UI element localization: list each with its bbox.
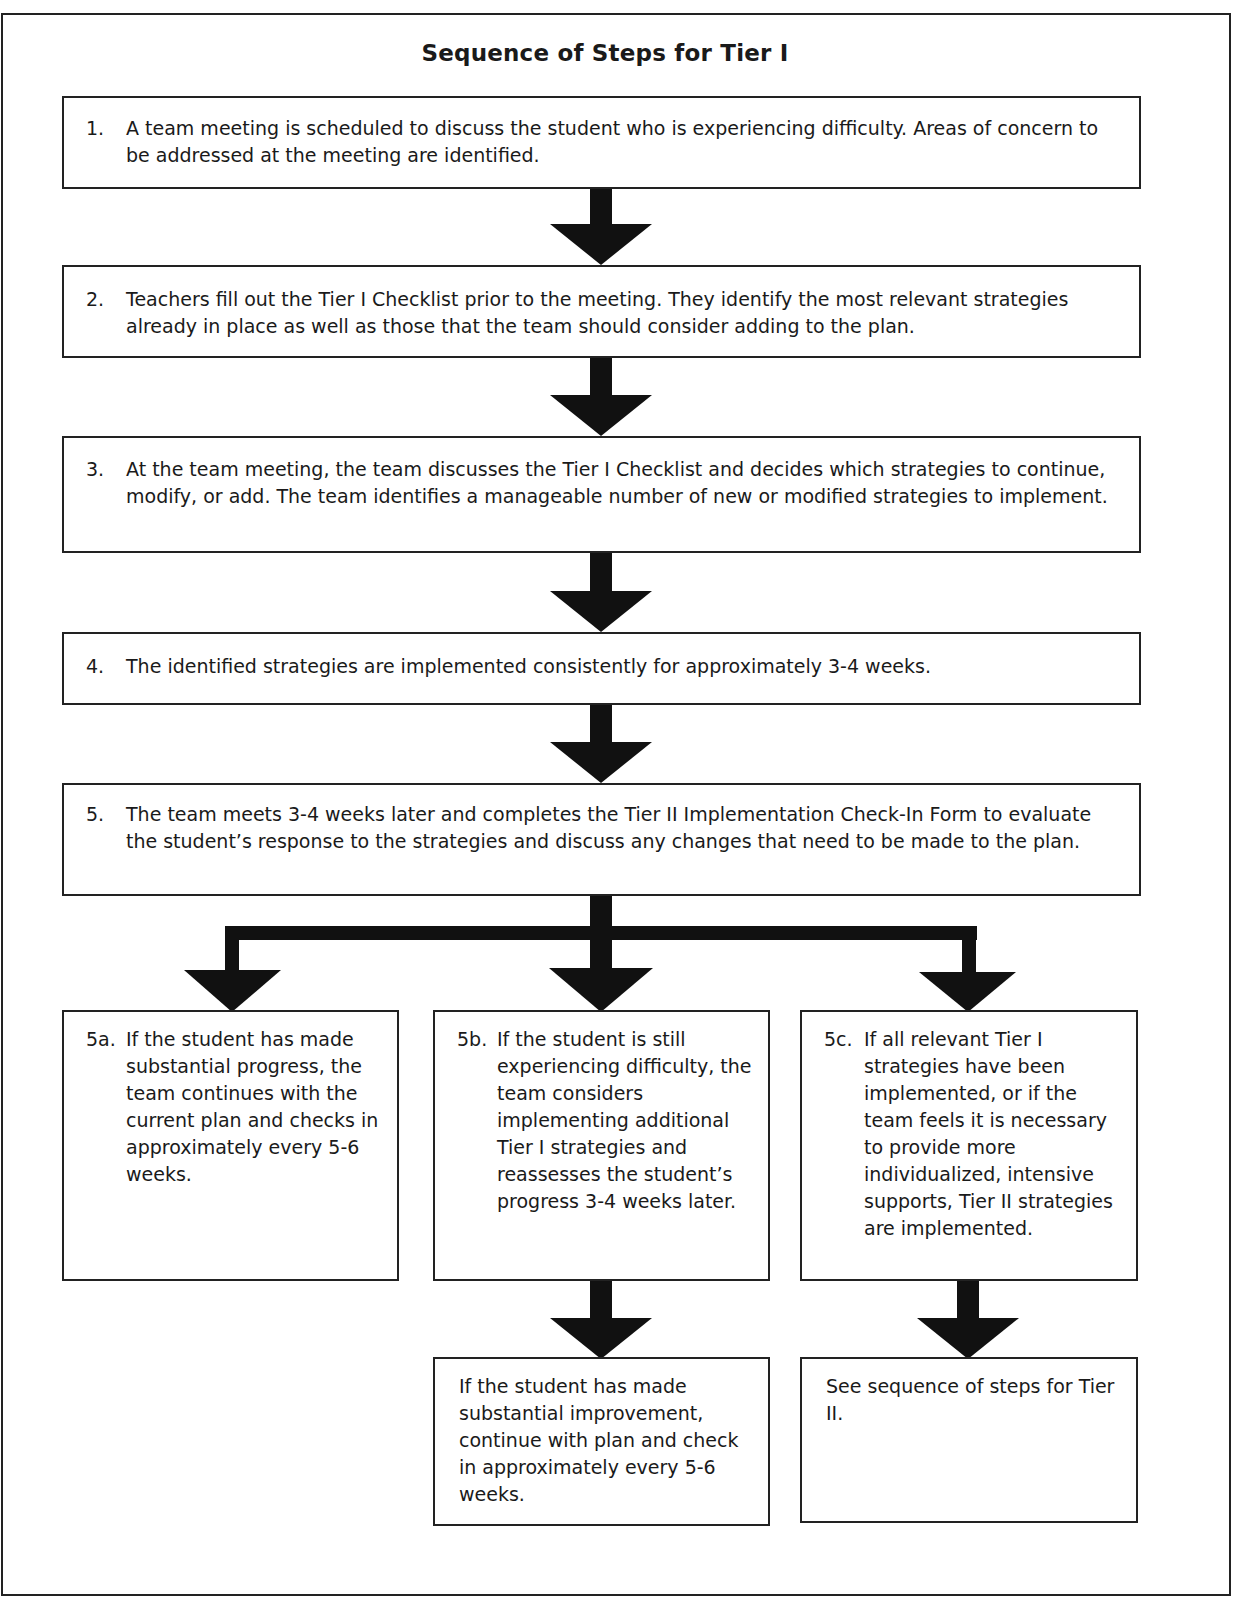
step-3-box: 3. At the team meeting, the team discuss… [62, 436, 1141, 553]
step-number: 2. [86, 286, 126, 356]
arrow-down-icon [550, 188, 652, 265]
step-text: A team meeting is scheduled to discuss t… [126, 115, 1125, 187]
branch-text: If all relevant Tier I strategies have b… [864, 1026, 1126, 1279]
outcome-5b-box: If the student has made substantial impr… [433, 1357, 770, 1526]
arrow-down-icon [550, 552, 652, 632]
arrow-down-icon [550, 1280, 652, 1359]
branch-number: 5a. [86, 1026, 126, 1279]
step-number: 5. [86, 801, 126, 894]
branch-5c-box: 5c. If all relevant Tier I strategies ha… [800, 1010, 1138, 1281]
step-number: 1. [86, 115, 126, 187]
step-text: Teachers fill out the Tier I Checklist p… [126, 286, 1125, 356]
arrow-down-icon [917, 1280, 1019, 1359]
step-number: 4. [86, 653, 126, 703]
step-2-box: 2. Teachers fill out the Tier I Checklis… [62, 265, 1141, 358]
arrow-down-icon [550, 704, 652, 783]
branch-number: 5b. [457, 1026, 497, 1279]
branch-5b-box: 5b. If the student is still experiencing… [433, 1010, 770, 1281]
outcome-text: See sequence of steps for Tier II. [826, 1375, 1114, 1424]
branch-number: 5c. [824, 1026, 864, 1279]
step-4-box: 4. The identified strategies are impleme… [62, 632, 1141, 705]
step-text: The identified strategies are implemente… [126, 653, 1125, 703]
outcome-text: If the student has made substantial impr… [459, 1375, 738, 1505]
step-number: 3. [86, 456, 126, 551]
arrow-down-icon [550, 357, 652, 436]
step-1-box: 1. A team meeting is scheduled to discus… [62, 96, 1141, 189]
branch-text: If the student is still experiencing dif… [497, 1026, 758, 1279]
outcome-5c-box: See sequence of steps for Tier II. [800, 1357, 1138, 1523]
step-text: The team meets 3-4 weeks later and compl… [126, 801, 1125, 894]
step-5-box: 5. The team meets 3-4 weeks later and co… [62, 783, 1141, 896]
step-text: At the team meeting, the team discusses … [126, 456, 1125, 551]
branch-5a-box: 5a. If the student has made substantial … [62, 1010, 399, 1281]
branch-text: If the student has made substantial prog… [126, 1026, 387, 1279]
branch-connector [184, 895, 1016, 1012]
